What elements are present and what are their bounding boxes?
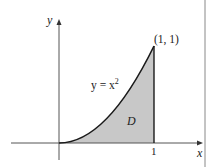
region-d-fill bbox=[59, 46, 154, 143]
point-label: (1, 1) bbox=[154, 33, 179, 46]
y-axis-label: y bbox=[46, 13, 53, 27]
x-tick-label-1: 1 bbox=[151, 145, 157, 157]
x-axis-label: x bbox=[196, 146, 203, 160]
region-diagram: y x 1 (1, 1) y = x2 D bbox=[0, 0, 211, 167]
y-axis-arrow-icon bbox=[57, 19, 62, 25]
region-label: D bbox=[126, 114, 136, 128]
curve-label: y = x2 bbox=[91, 77, 119, 92]
x-axis-arrow-icon bbox=[197, 141, 203, 146]
